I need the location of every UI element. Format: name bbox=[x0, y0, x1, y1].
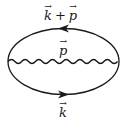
momentum-p: p bbox=[69, 9, 77, 22]
momentum-k: k bbox=[44, 9, 52, 22]
middle-momentum-label: p bbox=[59, 44, 67, 57]
momentum-p: p bbox=[59, 44, 67, 57]
momentum-k: k bbox=[59, 106, 67, 119]
plus-operator: + bbox=[52, 8, 69, 23]
top-momentum-label: k+p bbox=[44, 9, 77, 22]
photon-wavy-line bbox=[8, 60, 118, 64]
bottom-momentum-label: k bbox=[59, 106, 67, 119]
